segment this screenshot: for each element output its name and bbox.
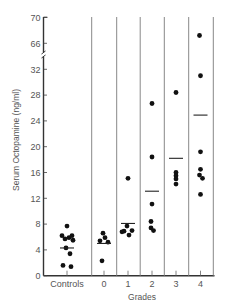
y-tick-label: 12 [30, 194, 40, 204]
data-point [125, 224, 130, 229]
data-point [151, 228, 156, 233]
data-point [198, 149, 203, 154]
y-tick-label: 0 [35, 271, 40, 281]
y-tick-label: 66 [30, 39, 40, 49]
y-tick-label: 28 [30, 90, 40, 100]
data-point [174, 177, 179, 182]
data-point [149, 219, 154, 224]
x-tick-label: 3 [173, 279, 178, 289]
x-tick-label: Controls [50, 279, 84, 289]
data-point [127, 233, 132, 238]
data-point [61, 263, 66, 268]
data-point [150, 155, 155, 160]
data-point [150, 101, 155, 106]
x-tick-label: 2 [149, 279, 154, 289]
x-tick-label: 0 [101, 279, 106, 289]
data-point [174, 90, 179, 95]
data-point [200, 176, 205, 181]
x-tick-label: 4 [198, 279, 203, 289]
y-axis-ticks: 0481216202428326670 [30, 13, 47, 281]
data-point [100, 258, 105, 263]
y-tick-label: 8 [35, 219, 40, 229]
mean-lines [60, 115, 208, 248]
data-points [60, 33, 205, 269]
y-tick-label: 16 [30, 168, 40, 178]
data-point [69, 264, 74, 269]
data-point [198, 167, 203, 172]
data-point [65, 224, 70, 229]
data-point [150, 202, 155, 207]
x-axis-title: Grades [128, 292, 156, 302]
data-point [68, 251, 73, 256]
data-point [198, 192, 203, 197]
data-point [130, 228, 135, 233]
data-point [198, 73, 203, 78]
axis-break-icon [42, 51, 46, 58]
scatter-chart: 0481216202428326670 Controls01234 Serum … [0, 0, 229, 308]
x-axis-labels: Controls01234 [50, 279, 203, 289]
y-tick-label: 24 [30, 116, 40, 126]
data-point [197, 33, 202, 38]
x-tick-label: 1 [125, 279, 130, 289]
y-axis-title: Serum Octopamine (ng/ml) [11, 89, 21, 191]
data-point [101, 231, 106, 236]
data-point [126, 176, 131, 181]
data-point [103, 235, 108, 240]
data-point [71, 238, 76, 243]
data-point [63, 237, 68, 242]
data-point [174, 182, 179, 187]
y-tick-label: 20 [30, 142, 40, 152]
data-point [120, 229, 125, 234]
y-tick-label: 32 [30, 65, 40, 75]
data-point [98, 238, 103, 243]
y-tick-label: 70 [30, 13, 40, 23]
y-tick-label: 4 [35, 245, 40, 255]
